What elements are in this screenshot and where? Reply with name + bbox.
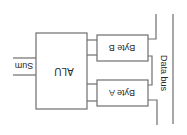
bus-wire-byte-b-top — [148, 14, 156, 39]
alu-label: ALU — [54, 66, 73, 77]
data-bus-label: Data bus — [159, 55, 169, 92]
sum-label: Sum — [15, 61, 34, 71]
diagram-canvas: ALU Byte B Byte A Sum Data bus — [0, 0, 187, 135]
bus-wire-byte-b-byte-a — [148, 56, 152, 85]
byte-a-label: Byte A — [109, 88, 135, 98]
alu-block-diagram: ALU Byte B Byte A Sum Data bus — [0, 0, 187, 135]
bus-wire-byte-a-bottom — [148, 100, 157, 125]
byte-b-label: Byte B — [109, 43, 136, 53]
